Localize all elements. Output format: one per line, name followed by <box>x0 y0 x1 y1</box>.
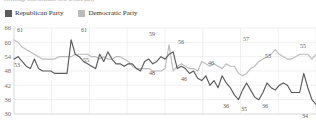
chart-legend: Republican Party Democratic Party <box>5 8 138 19</box>
data-point-label: 59 <box>149 31 155 37</box>
legend-swatch-democratic <box>78 10 85 17</box>
legend-item-republican[interactable]: Republican Party <box>5 9 63 18</box>
y-axis-tick-label: 54 <box>5 53 12 60</box>
data-point-label: 36 <box>262 103 268 109</box>
data-point-label: 35 <box>241 106 247 112</box>
data-point-label: 61 <box>17 27 23 33</box>
y-axis-tick-label: 66 <box>5 24 12 31</box>
y-axis-tick-label: 48 <box>5 67 12 74</box>
data-point-label: 48 <box>149 70 155 76</box>
y-axis-tick-label: 36 <box>5 96 12 103</box>
data-point-label: 46 <box>181 76 187 82</box>
plot-area: 6660544842363061536155594856464657535536… <box>0 22 316 124</box>
data-point-label: 61 <box>81 27 87 33</box>
data-point-label: 55 <box>83 57 89 63</box>
y-axis-tick-label: 42 <box>5 82 12 89</box>
chart-title-clipped: Percentage with favorable view of each p… <box>4 0 304 3</box>
data-point-label: 46 <box>208 60 214 66</box>
data-point-label: 56 <box>178 39 184 45</box>
y-axis-tick-label: 30 <box>5 110 12 117</box>
data-point-label: 36 <box>223 103 229 109</box>
chart-root: Percentage with favorable view of each p… <box>0 0 316 124</box>
data-point-label: 53 <box>14 62 20 68</box>
legend-swatch-republican <box>5 10 12 17</box>
data-point-label: 55 <box>300 43 306 49</box>
data-point-label: 53 <box>265 53 271 59</box>
legend-label-democratic: Democratic Party <box>88 9 137 18</box>
data-point-label: 57 <box>243 36 249 42</box>
data-point-label: 34 <box>302 113 308 119</box>
y-axis-tick-label: 60 <box>5 39 12 46</box>
line-chart: 6660544842363061536155594856464657535536… <box>0 22 316 124</box>
legend-item-democratic[interactable]: Democratic Party <box>78 9 137 18</box>
legend-label-republican: Republican Party <box>15 9 63 18</box>
